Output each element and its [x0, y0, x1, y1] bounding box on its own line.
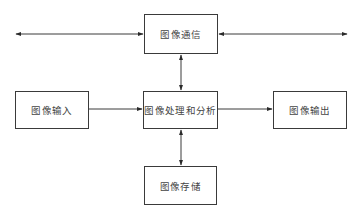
node-label: 图像输入 [31, 103, 72, 117]
node-image-storage: 图像存储 [144, 166, 217, 205]
node-label: 图像通信 [160, 27, 201, 41]
node-label: 图像存储 [160, 179, 201, 193]
node-label: 图像处理和分析 [144, 103, 216, 117]
node-label: 图像输出 [289, 103, 330, 117]
node-image-processing: 图像处理和分析 [143, 91, 218, 129]
node-image-output: 图像输出 [273, 91, 347, 129]
node-image-communication: 图像通信 [144, 14, 218, 54]
node-image-input: 图像输入 [15, 91, 89, 129]
